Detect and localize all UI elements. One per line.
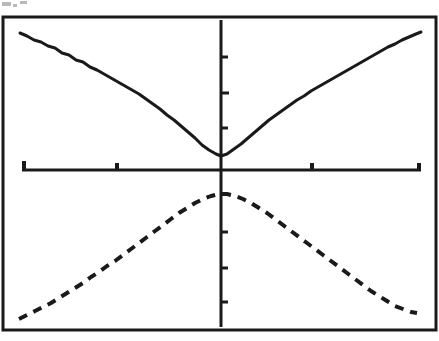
series-lower-dashed-curve (19, 194, 417, 319)
scan-speck-top-left-a (2, 2, 11, 6)
scan-speck-top-left-c (13, 4, 17, 7)
scan-speck-top-left-b (20, 1, 27, 4)
plot-canvas (0, 0, 439, 341)
graph-figure (0, 0, 439, 341)
